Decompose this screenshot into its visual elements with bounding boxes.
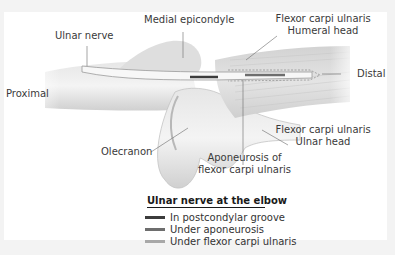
label-ulnar-nerve: Ulnar nerve (55, 30, 114, 42)
label-medial-epicondyle: Medial epicondyle (144, 14, 234, 26)
legend-swatch-dark (145, 216, 165, 219)
legend-item-postcondylar: In postcondylar groove (145, 211, 296, 223)
label-aponeurosis-line1: Aponeurosis of (192, 152, 297, 164)
label-distal: Distal (357, 68, 386, 80)
label-aponeurosis-line2: flexor carpi ulnaris (192, 164, 297, 176)
label-fcu-humeral-line2: Humeral head (268, 25, 378, 37)
label-fcu-ulnar-head: Flexor carpi ulnaris Ulnar head (268, 124, 378, 148)
label-proximal: Proximal (6, 88, 49, 100)
legend-swatch-light (145, 240, 165, 243)
label-fcu-humeral-line1: Flexor carpi ulnaris (268, 13, 378, 25)
label-fcu-humeral-head: Flexor carpi ulnaris Humeral head (268, 13, 378, 37)
legend-item-fcu: Under flexor carpi ulnaris (145, 235, 296, 247)
legend-label: In postcondylar groove (170, 212, 285, 223)
legend-item-aponeurosis: Under aponeurosis (145, 223, 296, 235)
legend-label: Under flexor carpi ulnaris (170, 236, 296, 247)
legend-label: Under aponeurosis (170, 224, 264, 235)
legend: Ulnar nerve at the elbow In postcondylar… (145, 195, 296, 247)
label-olecranon: Olecranon (101, 146, 152, 158)
label-aponeurosis: Aponeurosis of flexor carpi ulnaris (192, 152, 297, 176)
label-fcu-ulnar-line1: Flexor carpi ulnaris (268, 124, 378, 136)
legend-title: Ulnar nerve at the elbow (147, 195, 265, 208)
label-fcu-ulnar-line2: Ulnar head (268, 136, 378, 148)
legend-swatch-medium (145, 228, 165, 231)
